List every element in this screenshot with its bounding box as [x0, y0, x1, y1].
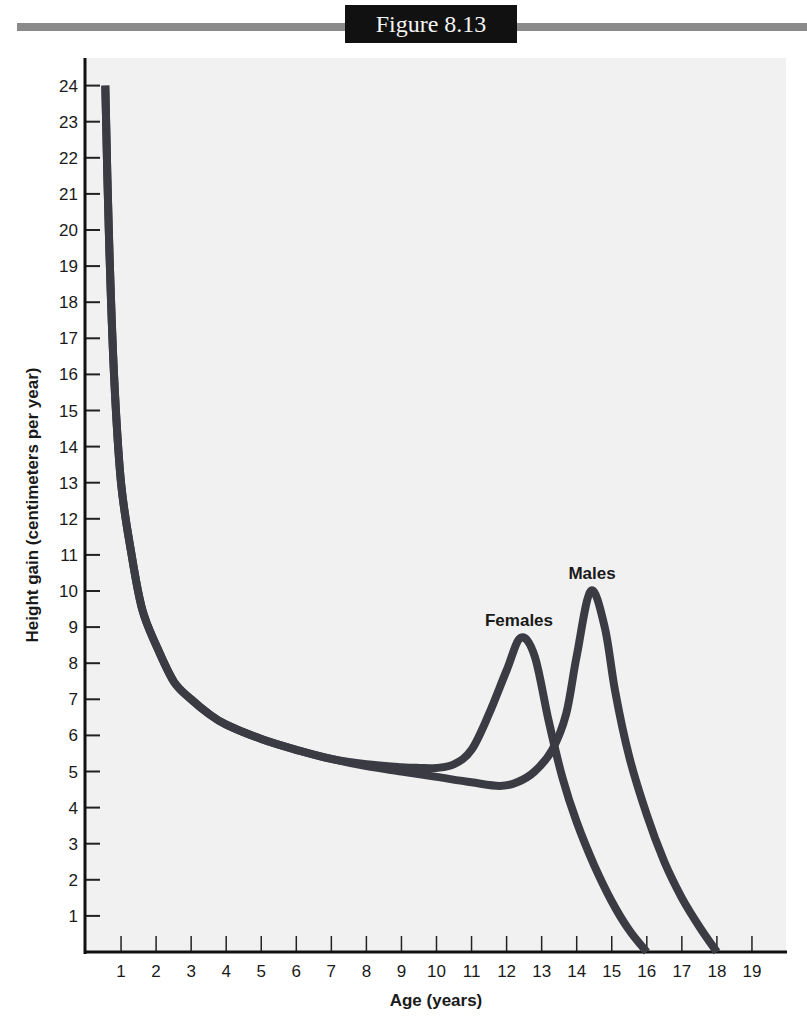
y-tick-label: 2	[69, 871, 78, 890]
x-tick-label: 19	[742, 962, 761, 981]
y-tick-label: 8	[69, 654, 78, 673]
x-tick-label: 12	[497, 962, 516, 981]
y-tick-label: 6	[69, 726, 78, 745]
figure-title: Figure 8.13	[376, 11, 487, 37]
y-tick-label: 9	[69, 618, 78, 637]
x-tick-label: 17	[672, 962, 691, 981]
y-tick-label: 17	[59, 329, 78, 348]
figure-chart: Figure 8.13 1234567891011121314151617181…	[0, 0, 807, 1029]
y-tick-label: 21	[59, 185, 78, 204]
y-tick-label: 19	[59, 257, 78, 276]
y-tick-label: 23	[59, 113, 78, 132]
y-tick-label: 12	[59, 510, 78, 529]
y-tick-label: 14	[59, 438, 78, 457]
y-tick-label: 18	[59, 293, 78, 312]
x-tick-label: 15	[602, 962, 621, 981]
x-axis-title: Age (years)	[390, 991, 483, 1010]
x-tick-label: 4	[221, 962, 230, 981]
y-tick-label: 4	[69, 799, 78, 818]
x-tick-label: 1	[116, 962, 125, 981]
x-tick-label: 8	[362, 962, 371, 981]
y-tick-label: 3	[69, 835, 78, 854]
x-tick-label: 6	[292, 962, 301, 981]
x-tick-label: 10	[427, 962, 446, 981]
x-tick-label: 14	[567, 962, 586, 981]
y-tick-label: 16	[59, 365, 78, 384]
y-tick-label: 15	[59, 402, 78, 421]
x-tick-label: 5	[257, 962, 266, 981]
x-tick-label: 3	[186, 962, 195, 981]
y-tick-label: 7	[69, 690, 78, 709]
y-tick-label: 20	[59, 221, 78, 240]
y-tick-label: 5	[69, 763, 78, 782]
y-tick-label: 10	[59, 582, 78, 601]
x-tick-label: 7	[327, 962, 336, 981]
y-tick-label: 11	[60, 546, 78, 565]
x-tick-label: 9	[397, 962, 406, 981]
y-axis-title: Height gain (centimeters per year)	[23, 368, 42, 643]
x-tick-label: 11	[463, 962, 481, 981]
x-tick-label: 16	[637, 962, 656, 981]
plot-area	[86, 58, 786, 952]
y-tick-label: 1	[69, 907, 78, 926]
y-tick-label: 13	[59, 474, 78, 493]
x-tick-label: 2	[151, 962, 160, 981]
x-tick-label: 13	[532, 962, 551, 981]
y-tick-label: 22	[59, 149, 78, 168]
series-label-males: Males	[568, 564, 615, 583]
series-label-females: Females	[485, 611, 553, 630]
y-tick-label: 24	[59, 77, 78, 96]
x-tick-label: 18	[707, 962, 726, 981]
